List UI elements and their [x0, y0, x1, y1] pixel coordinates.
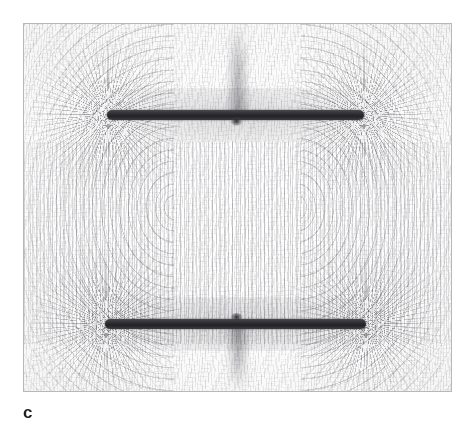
upper-bar-magnet — [107, 110, 364, 120]
field-photograph-panel — [23, 23, 452, 392]
photograph-stage — [24, 24, 451, 391]
panel-caption-label: c — [23, 404, 32, 422]
figure-panel-c: c — [0, 0, 471, 436]
lower-magnet-center-nub — [230, 313, 243, 322]
upper-magnet-center-nub — [230, 117, 243, 126]
lower-bar-magnet — [105, 319, 366, 329]
